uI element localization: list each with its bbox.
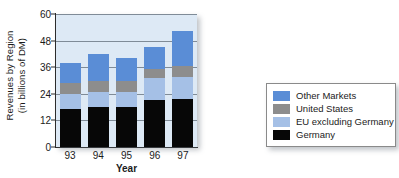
y-tick-label-36: 36 bbox=[29, 62, 51, 73]
bar-95 bbox=[116, 58, 137, 147]
legend-item-other-markets[interactable]: Other Markets bbox=[273, 89, 391, 102]
bar-segment-97-united-states bbox=[172, 66, 193, 77]
legend-swatch-icon bbox=[273, 91, 290, 101]
bar-96 bbox=[144, 47, 165, 147]
bar-segment-95-other-markets bbox=[116, 58, 137, 80]
bar-segment-93-united-states bbox=[60, 83, 81, 94]
bar-segment-93-eu-excluding-germany bbox=[60, 94, 81, 110]
legend-item-united-states[interactable]: United States bbox=[273, 102, 391, 115]
legend-label: Other Markets bbox=[296, 90, 356, 101]
x-axis-title: Year bbox=[56, 163, 197, 174]
y-tick-mark-24 bbox=[51, 93, 55, 94]
x-tick-label-97: 97 bbox=[168, 150, 198, 161]
y-tick-mark-0 bbox=[51, 147, 55, 148]
x-tick-label-96: 96 bbox=[140, 150, 170, 161]
bar-segment-96-other-markets bbox=[144, 47, 165, 69]
bar-segment-97-other-markets bbox=[172, 31, 193, 66]
x-tick-label-95: 95 bbox=[112, 150, 142, 161]
legend-swatch-icon bbox=[273, 130, 290, 140]
x-tick-label-93: 93 bbox=[55, 150, 85, 161]
y-tick-label-12: 12 bbox=[29, 115, 51, 126]
bar-segment-94-germany bbox=[88, 107, 109, 147]
bar-segment-93-other-markets bbox=[60, 63, 81, 83]
y-tick-mark-48 bbox=[51, 40, 55, 41]
legend-label: Germany bbox=[296, 129, 335, 140]
bar-93 bbox=[60, 63, 81, 147]
bar-segment-93-germany bbox=[60, 109, 81, 147]
y-tick-label-60: 60 bbox=[29, 9, 51, 20]
y-tick-mark-36 bbox=[51, 67, 55, 68]
bar-segment-95-united-states bbox=[116, 81, 137, 92]
chart-legend: Other MarketsUnited StatesEU excluding G… bbox=[266, 83, 396, 147]
stacked-bar-chart-figure: Revenues by Region (in billions of DM) 0… bbox=[0, 0, 399, 178]
bar-segment-95-germany bbox=[116, 107, 137, 147]
legend-swatch-icon bbox=[273, 104, 290, 114]
bar-segment-96-germany bbox=[144, 100, 165, 147]
bar-segment-97-eu-excluding-germany bbox=[172, 77, 193, 99]
legend-swatch-icon bbox=[273, 117, 290, 127]
y-axis-title-line-2: (in billions of DM) bbox=[15, 30, 27, 120]
bar-segment-95-eu-excluding-germany bbox=[116, 92, 137, 108]
legend-item-germany[interactable]: Germany bbox=[273, 128, 391, 141]
plot-area bbox=[56, 14, 197, 147]
y-tick-label-0: 0 bbox=[29, 142, 51, 153]
y-axis-ticks: 01224364860 bbox=[26, 0, 51, 178]
y-axis-title-line-1: Revenues by Region bbox=[4, 30, 16, 120]
bar-segment-94-eu-excluding-germany bbox=[88, 92, 109, 108]
bar-segment-94-united-states bbox=[88, 81, 109, 92]
y-tick-mark-12 bbox=[51, 120, 55, 121]
bar-segment-97-germany bbox=[172, 99, 193, 147]
y-tick-mark-60 bbox=[51, 14, 55, 15]
x-axis-line bbox=[55, 147, 198, 148]
y-tick-label-24: 24 bbox=[29, 88, 51, 99]
legend-item-eu-excluding-germany[interactable]: EU excluding Germany bbox=[273, 115, 391, 128]
bar-97 bbox=[172, 31, 193, 147]
bar-segment-96-united-states bbox=[144, 69, 165, 78]
bar-segment-94-other-markets bbox=[88, 54, 109, 81]
gridline-60 bbox=[56, 14, 197, 15]
bar-segment-96-eu-excluding-germany bbox=[144, 78, 165, 100]
legend-label: United States bbox=[296, 103, 353, 114]
legend-label: EU excluding Germany bbox=[296, 116, 394, 127]
x-tick-label-94: 94 bbox=[83, 150, 113, 161]
y-tick-label-48: 48 bbox=[29, 35, 51, 46]
bar-94 bbox=[88, 54, 109, 147]
